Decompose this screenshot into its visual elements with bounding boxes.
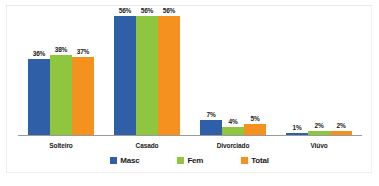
bar-column[interactable]: 56% [158,8,180,135]
bar-column[interactable]: 56% [136,8,158,135]
x-axis-tick-label: Solteiro [18,142,104,149]
bar-group-bars: 1%2%2% [286,8,352,135]
bar-group-bars: 56%56%56% [114,8,180,135]
page-frame-right-edge [371,5,372,173]
bar-column[interactable]: 5% [244,8,266,135]
page-frame-top-edge [6,5,372,6]
bar-fem[interactable] [50,55,72,135]
bar-group: 7%4%5% [200,8,266,135]
bar-masc[interactable] [286,133,308,135]
bar-column[interactable]: 2% [330,8,352,135]
bar-column[interactable]: 37% [72,8,94,135]
bar-column[interactable]: 56% [114,8,136,135]
bar-masc[interactable] [114,16,136,135]
x-axis-tick-label: Divorciado [190,142,276,149]
bar-total[interactable] [158,16,180,135]
bar-value-label: 37% [66,48,100,55]
bar-column[interactable]: 7% [200,8,222,135]
legend-label: Total [251,156,269,165]
x-axis-tick-label: Casado [104,142,190,149]
bar-total[interactable] [72,57,94,135]
legend-item-fem[interactable]: Fem [177,156,203,165]
legend-item-masc[interactable]: Masc [110,156,139,165]
bar-value-label: 2% [324,122,358,129]
bar-group: 56%56%56% [114,8,180,135]
legend-label: Fem [187,156,203,165]
bar-column[interactable]: 36% [28,8,50,135]
bar-total[interactable] [330,131,352,135]
bar-value-label: 5% [238,115,272,122]
legend-swatch-icon [241,157,248,164]
bar-column[interactable]: 38% [50,8,72,135]
bar-group: 36%38%37% [28,8,94,135]
bar-total[interactable] [244,124,266,135]
x-axis-tick-label: Viúvo [276,142,362,149]
bar-chart: 36%38%37%Solteiro56%56%56%Casado7%4%5%Di… [0,0,379,186]
bar-fem[interactable] [222,127,244,135]
legend-swatch-icon [110,157,117,164]
legend-label: Masc [120,156,139,165]
bar-group-bars: 7%4%5% [200,8,266,135]
x-axis-line [18,135,362,136]
bar-value-label: 56% [152,7,186,14]
legend-item-total[interactable]: Total [241,156,269,165]
bar-column[interactable]: 2% [308,8,330,135]
bar-fem[interactable] [136,16,158,135]
bar-masc[interactable] [28,59,50,135]
page-frame-left-edge [6,5,7,173]
bar-fem[interactable] [308,131,330,135]
page-frame-bottom-edge [6,172,372,173]
bar-group-bars: 36%38%37% [28,8,94,135]
bar-group: 1%2%2% [286,8,352,135]
bar-column[interactable]: 1% [286,8,308,135]
legend-swatch-icon [177,157,184,164]
chart-legend: MascFemTotal [0,156,379,165]
